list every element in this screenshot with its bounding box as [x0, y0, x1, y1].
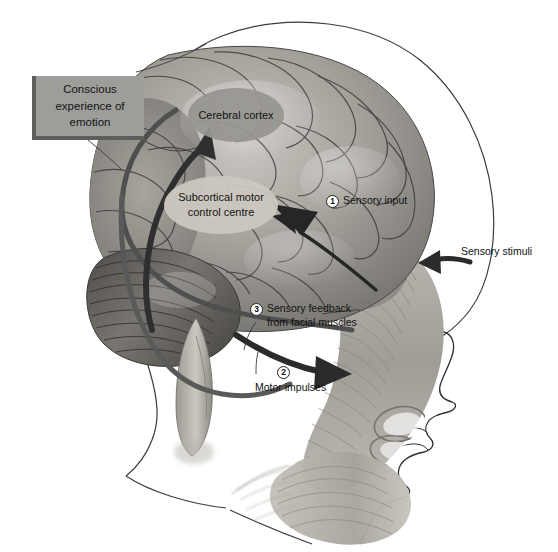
step-1-label: Sensory input [343, 194, 407, 208]
step-1-number: 1 [326, 195, 339, 208]
diagram-canvas: Conscious experience of emotion Cerebral… [0, 0, 558, 552]
annotation-sensory-stimuli: Sensory stimuli [461, 245, 532, 257]
step-3-number: 3 [250, 303, 263, 316]
step-1-sensory-input: 1Sensory input [326, 194, 407, 208]
cerebral-cortex-ellipse [188, 88, 284, 142]
step-3-label-line1: Sensory feedback [267, 302, 351, 316]
step-3-sensory-feedback: 3Sensory feedback from facial muscles [250, 302, 357, 330]
step-2-label: Motor impulses [255, 381, 326, 395]
callout-text: Conscious experience of emotion [36, 81, 144, 131]
step-3-label-line2: from facial muscles [267, 316, 357, 330]
sensory-stimuli-text: Sensory stimuli [461, 245, 532, 257]
callout-conscious-experience: Conscious experience of emotion [32, 76, 144, 140]
step-2-number: 2 [277, 366, 290, 379]
jaw-muscle-group [232, 452, 411, 545]
subcortical-centre-ellipse [164, 176, 278, 234]
step-2-motor-impulses: 2 Motor impulses [255, 366, 326, 395]
